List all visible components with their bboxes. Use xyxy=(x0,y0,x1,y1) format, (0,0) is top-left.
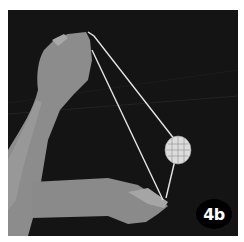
string xyxy=(88,32,175,200)
lower-arm xyxy=(32,178,168,224)
step-badge: 4b xyxy=(196,199,232,229)
disc xyxy=(165,136,191,164)
step-label: 4b xyxy=(203,205,225,224)
